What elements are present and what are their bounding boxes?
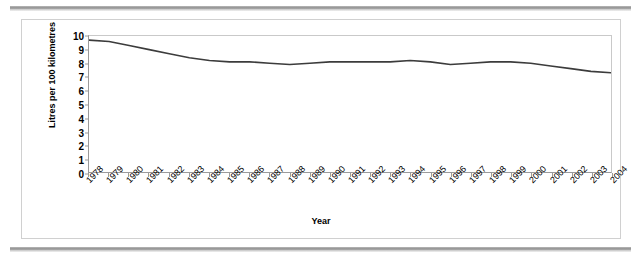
y-axis-tick-mark <box>85 49 89 50</box>
y-axis-tick-mark <box>85 132 89 133</box>
y-axis-tick-mark <box>85 77 89 78</box>
top-divider-rule <box>10 6 631 11</box>
chart-plot-wrapper: Litres per 100 kilometres 012345678910 1… <box>22 20 620 238</box>
y-axis-tick-mark <box>85 160 89 161</box>
x-axis-tick-labels: 1978197919801981198219831984198519861987… <box>88 178 612 220</box>
bottom-divider-rule <box>10 247 631 252</box>
y-axis-tick-mark <box>85 118 89 119</box>
x-axis-title: Year <box>22 216 620 226</box>
y-axis-tick-mark <box>85 146 89 147</box>
y-axis-tick-mark <box>85 105 89 106</box>
y-axis-tick-mark <box>85 91 89 92</box>
y-axis-tick-mark <box>85 36 89 37</box>
chart-frame: Litres per 100 kilometres 012345678910 1… <box>21 19 621 239</box>
y-axis-tick-mark <box>85 63 89 64</box>
y-axis-title: Litres per 100 kilometres <box>47 5 57 145</box>
plot-area: 012345678910 <box>88 35 612 173</box>
screenshot-root: Litres per 100 kilometres 012345678910 1… <box>0 0 641 267</box>
series-polyline <box>89 40 611 73</box>
line-series-fuel-consumption <box>89 36 611 172</box>
